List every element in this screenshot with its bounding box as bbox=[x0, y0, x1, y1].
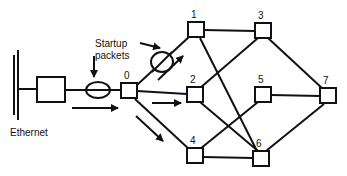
node-label: 7 bbox=[323, 75, 329, 86]
node-label: 6 bbox=[256, 138, 262, 149]
node-1-box bbox=[188, 22, 204, 37]
node-3-box bbox=[255, 23, 271, 38]
node-0-box bbox=[121, 83, 137, 98]
network-diagram: Startup packets Ethernet 01234567 bbox=[0, 0, 347, 176]
startup-label-2: packets bbox=[95, 50, 129, 61]
node-label: 0 bbox=[124, 70, 130, 81]
node-5-box bbox=[255, 87, 271, 102]
ethernet-label: Ethernet bbox=[10, 127, 48, 138]
node-label: 1 bbox=[191, 9, 197, 20]
diagram-canvas bbox=[0, 0, 347, 176]
node-2-box bbox=[187, 87, 203, 102]
node-label: 3 bbox=[258, 10, 264, 21]
node-label: 2 bbox=[190, 74, 196, 85]
startup-label: Startup bbox=[95, 38, 127, 49]
node-label: 4 bbox=[190, 135, 196, 146]
node-4-box bbox=[187, 148, 203, 163]
bridge-box bbox=[37, 77, 65, 102]
node-label: 5 bbox=[258, 74, 264, 85]
node-6-box bbox=[253, 151, 269, 166]
node-7-box bbox=[320, 88, 336, 103]
arrow-icon bbox=[140, 43, 160, 48]
arrow-icon bbox=[136, 116, 163, 141]
